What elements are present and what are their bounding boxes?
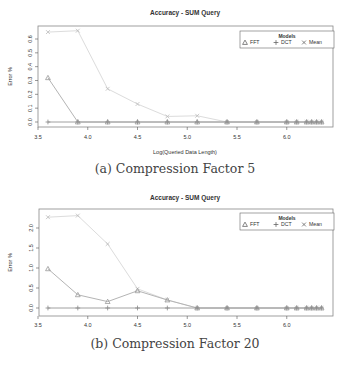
x-tick-label: 3.5 — [34, 322, 42, 328]
x-axis: 3.54.04.55.05.56.0 — [34, 127, 290, 140]
x-tick-label: 5.0 — [183, 134, 191, 140]
plus-marker — [46, 306, 51, 311]
x-marker — [136, 102, 140, 106]
plus-marker — [165, 306, 170, 311]
series-line — [48, 269, 322, 308]
x-tick-label: 6.0 — [283, 134, 291, 140]
y-tick-label: 0.5 — [28, 284, 34, 292]
plus-marker — [105, 306, 110, 311]
caption-b: (b) Compression Factor 20 — [0, 336, 350, 351]
y-tick-label: 0.0 — [27, 118, 33, 126]
plus-marker — [75, 306, 80, 311]
y-axis-label: Error % — [7, 253, 13, 272]
x-tick-label: 5.0 — [183, 322, 191, 328]
legend-entry-dct: DCT — [281, 39, 292, 45]
legend-entry-fft: FFT — [250, 221, 260, 227]
y-tick-label: 0.0 — [28, 304, 34, 312]
triangle-marker — [46, 75, 51, 79]
x-axis: 3.54.04.55.05.56.0 — [34, 316, 290, 328]
legend-entry-fft: FFT — [250, 39, 260, 45]
x-tick-label: 5.5 — [233, 322, 241, 328]
series-fft — [46, 266, 324, 310]
x-tick-label: 4.5 — [134, 322, 142, 328]
x-tick-label: 4.0 — [84, 322, 92, 328]
x-marker — [106, 242, 110, 246]
triangle-marker — [46, 266, 51, 270]
chart-compression-factor-20: Accuracy - SUM Query0.00.51.01.52.0Error… — [0, 190, 350, 335]
series-line — [48, 78, 322, 122]
plus-marker — [135, 306, 140, 311]
chart-compression-factor-5: Accuracy - SUM Query0.00.10.20.30.40.50.… — [0, 0, 350, 160]
figure-a: Accuracy - SUM Query0.00.10.20.30.40.50.… — [0, 0, 350, 190]
y-tick-label: 0.5 — [27, 49, 33, 57]
legend-title: Models — [278, 33, 295, 39]
y-tick-label: 0.2 — [27, 91, 33, 99]
y-axis-label: Error % — [7, 67, 13, 86]
x-tick-label: 4.0 — [84, 134, 92, 140]
y-tick-label: 0.3 — [27, 77, 33, 85]
legend-title: Models — [278, 215, 295, 221]
x-tick-label: 6.0 — [283, 322, 291, 328]
series-dct — [46, 120, 324, 125]
legend-entry-dct: DCT — [281, 221, 292, 227]
figure-b: Accuracy - SUM Query0.00.51.01.52.0Error… — [0, 190, 350, 381]
chart-title: Accuracy - SUM Query — [150, 9, 220, 17]
chart-title: Accuracy - SUM Query — [150, 194, 220, 202]
x-axis-label: Log(Queried Data Length) — [153, 149, 217, 155]
x-tick-label: 3.5 — [34, 134, 42, 140]
caption-a: (a) Compression Factor 5 — [0, 161, 350, 176]
y-tick-label: 0.4 — [27, 63, 33, 71]
y-tick-label: 1.0 — [28, 264, 34, 272]
y-tick-label: 0.6 — [27, 35, 33, 43]
y-axis: 0.00.51.01.52.0 — [28, 224, 39, 312]
legend-entry-mean: Mean — [309, 221, 322, 227]
y-axis: 0.00.10.20.30.40.50.6 — [27, 35, 38, 126]
y-tick-label: 0.1 — [27, 104, 33, 112]
x-tick-label: 5.5 — [233, 134, 241, 140]
x-marker — [106, 87, 110, 91]
series-fft — [46, 75, 324, 124]
plus-marker — [46, 120, 51, 125]
x-tick-label: 4.5 — [134, 134, 142, 140]
y-tick-label: 2.0 — [28, 224, 34, 232]
legend: ModelsFFTDCTMean — [240, 31, 334, 48]
legend-entry-mean: Mean — [309, 39, 322, 45]
series-dct — [46, 306, 324, 311]
legend: ModelsFFTDCTMean — [240, 213, 334, 230]
y-tick-label: 1.5 — [28, 244, 34, 252]
